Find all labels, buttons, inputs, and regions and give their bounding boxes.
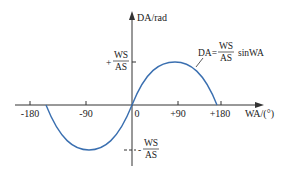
y-axis	[124, 11, 136, 166]
y-axis-arrow-icon	[129, 11, 135, 20]
svg-text:-: -	[138, 145, 141, 155]
x-tick-label: -90	[79, 108, 92, 119]
x-tick-label: +180	[210, 108, 231, 119]
x-tick-label: 0	[135, 108, 140, 119]
curve-equation: DA= WS AS sinWA	[198, 41, 264, 63]
equation-leader-line	[196, 58, 203, 67]
svg-text:DA=: DA=	[198, 48, 217, 58]
x-axis-label: WA/(°)	[245, 108, 274, 120]
negative-amplitude-label: - WS AS	[138, 138, 159, 160]
svg-text:AS: AS	[115, 62, 127, 72]
x-tick-label: +90	[170, 108, 186, 119]
positive-amplitude-label: + WS AS	[106, 50, 129, 72]
x-axis	[15, 101, 264, 108]
svg-text:AS: AS	[145, 150, 157, 160]
x-tick-label: -180	[21, 108, 39, 119]
y-axis-label: DA/rad	[137, 12, 167, 23]
svg-text:AS: AS	[220, 53, 232, 63]
svg-text:WS: WS	[144, 138, 158, 148]
svg-text:WS: WS	[114, 50, 128, 60]
svg-text:sinWA: sinWA	[238, 48, 264, 58]
svg-text:+: +	[106, 58, 111, 68]
sine-diagram: -180 -90 0 +90 +180 DA/rad WA/(°) + WS A…	[0, 0, 286, 177]
svg-text:WS: WS	[219, 41, 233, 51]
